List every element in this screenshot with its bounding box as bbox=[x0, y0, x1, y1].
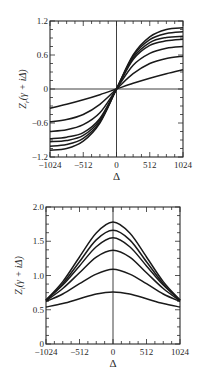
x-axis-title: Δ bbox=[109, 357, 116, 369]
x-tick-label: 512 bbox=[143, 160, 157, 170]
y-tick-label: 0.5 bbox=[33, 305, 45, 315]
y-tick-label: 0.6 bbox=[37, 50, 49, 60]
x-tick-label: −1024 bbox=[34, 347, 58, 357]
y-tick-label: 2.0 bbox=[33, 202, 45, 212]
x-axis-title: Δ bbox=[113, 170, 120, 182]
x-tick-label: 0 bbox=[111, 347, 116, 357]
figure: −1024−51205121024−1.2−0.600.61.2ΔZr(γ + … bbox=[0, 0, 202, 382]
y-tick-label: 1.2 bbox=[37, 16, 48, 26]
y-tick-label: 1.0 bbox=[33, 271, 45, 281]
x-tick-label: 0 bbox=[114, 160, 119, 170]
y-tick-label: −1.2 bbox=[32, 152, 48, 162]
y-tick-label: 0 bbox=[44, 84, 49, 94]
x-tick-label: −512 bbox=[70, 347, 89, 357]
x-tick-label: 1024 bbox=[174, 160, 193, 170]
x-tick-label: −512 bbox=[74, 160, 93, 170]
imaginary-part-chart: −1024−5120512102400.51.01.52.0ΔZi(γ + iΔ… bbox=[13, 202, 190, 369]
real-part-chart: −1024−51205121024−1.2−0.600.61.2ΔZr(γ + … bbox=[17, 16, 193, 182]
y-tick-label: −0.6 bbox=[32, 118, 49, 128]
y-tick-label: 0 bbox=[40, 339, 45, 349]
y-axis-title: Zr(γ + iΔ) bbox=[17, 69, 31, 109]
y-axis-title: Zi(γ + iΔ) bbox=[13, 256, 27, 295]
x-tick-label: 512 bbox=[140, 347, 154, 357]
y-tick-label: 1.5 bbox=[33, 236, 45, 246]
x-tick-label: 1024 bbox=[171, 347, 190, 357]
